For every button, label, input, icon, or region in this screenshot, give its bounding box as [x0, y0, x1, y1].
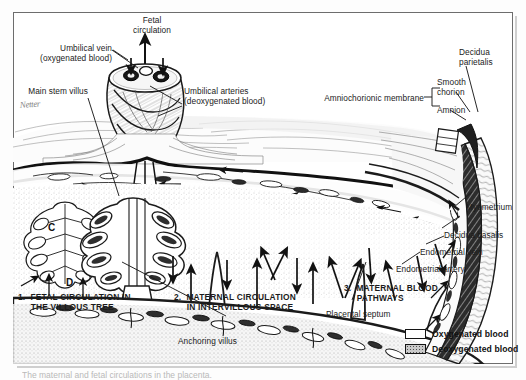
label-anchoring-villus: Anchoring villus	[178, 337, 258, 347]
heading-fetal-circulation-villous-tree: 1. FETAL CIRCULATION IN THE VILLOUS TREE	[18, 293, 148, 312]
legend-row-deoxygenated: Deoxygenated blood	[405, 342, 518, 355]
marker-d: D	[66, 277, 73, 288]
marker-c: C	[48, 222, 55, 233]
label-endometrial-artery: Endometrial artery	[396, 265, 484, 275]
deoxygenated-swatch-icon	[405, 344, 426, 354]
figure-stage: Fetal circulation Umbilical vein (oxygen…	[0, 0, 526, 380]
legend-label-deoxygenated: Deoxygenated blood	[432, 344, 518, 354]
figure-caption-clipped: The maternal and fetal circulations in t…	[22, 370, 492, 380]
label-endometrial-vein: Endometrial vein	[420, 248, 504, 258]
label-fetal-circulation: Fetal circulation	[120, 16, 184, 35]
label-placental-septum: Placental septum	[326, 310, 400, 320]
oxygenated-swatch-icon	[405, 329, 426, 339]
label-myometrium: Myometrium	[466, 203, 522, 213]
label-amniochorionic-membrane: Amniochorionic membrane	[318, 94, 424, 104]
label-amnion: Amnion	[437, 106, 479, 116]
legend: Oxygenated blood Deoxygenated blood	[405, 327, 518, 357]
heading-maternal-circulation-intervillous: 2. MATERNAL CIRCULATION IN INTERVILLOUS …	[174, 293, 324, 312]
label-smooth-chorion: Smooth chorion	[437, 78, 483, 97]
label-umbilical-vein: Umbilical vein (oxygenated blood)	[24, 44, 112, 63]
legend-row-oxygenated: Oxygenated blood	[405, 327, 518, 340]
label-main-stem-villus: Main stem villus	[8, 87, 88, 97]
heading-maternal-blood-pathways: 3. MATERNAL BLOOD PATHWAYS	[344, 284, 474, 303]
label-decidua-basalis: Decidua basalis	[444, 231, 520, 241]
label-umbilical-arteries: Umbilical arteries (deoxygenated blood)	[184, 87, 294, 106]
label-decidua-parietalis: Decidua parietalis	[459, 48, 511, 67]
legend-label-oxygenated: Oxygenated blood	[432, 329, 509, 339]
